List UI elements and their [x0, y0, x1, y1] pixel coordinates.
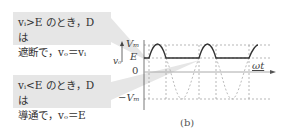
output-waveform	[144, 44, 258, 58]
label-zero: 0	[132, 65, 138, 76]
label-vm: Vₘ	[126, 38, 139, 49]
waveform-diagram	[0, 0, 283, 138]
figure-caption: (b)	[180, 117, 194, 128]
label-e: E	[130, 51, 137, 62]
label-omega-t: ωt	[252, 60, 264, 71]
x-axis-arrow-icon	[270, 70, 276, 74]
label-vo: vₒ	[113, 56, 122, 66]
input-sinusoid	[166, 58, 249, 99]
label-neg-vm: −Vₘ	[118, 92, 140, 103]
